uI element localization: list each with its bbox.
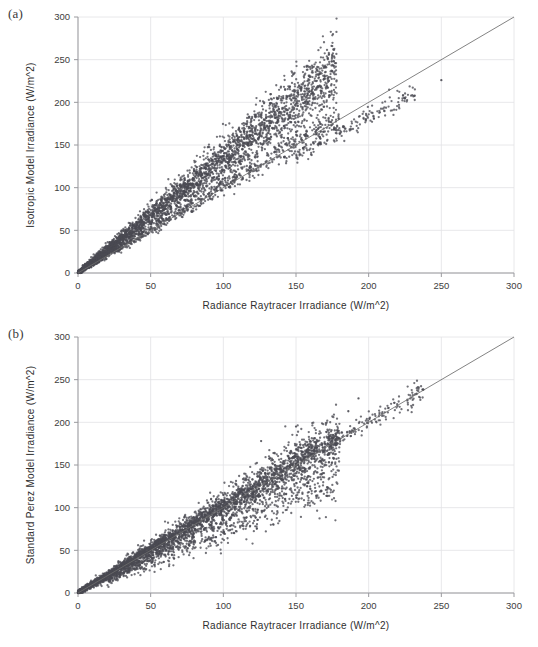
x-tick-label: 150 (288, 600, 304, 611)
y-tick-label: 200 (54, 417, 70, 428)
y-axis-title: Standard Perez Model Irradiance (W/m^2) (25, 366, 36, 565)
panel-a: (a) 050100150200250300050100150200250300… (0, 0, 538, 320)
x-tick-label: 200 (361, 600, 377, 611)
x-tick-label: 100 (215, 600, 231, 611)
y-tick-label: 50 (59, 545, 70, 556)
y-tick-label: 0 (65, 267, 70, 278)
x-tick-label: 200 (361, 280, 377, 291)
figure-container: (a) 050100150200250300050100150200250300… (0, 0, 538, 647)
outlier-point (260, 440, 262, 442)
x-tick-label: 100 (215, 280, 231, 291)
scatter-plot-b: 050100150200250300050100150200250300Radi… (0, 320, 538, 647)
y-tick-label: 50 (59, 225, 70, 236)
y-tick-label: 300 (54, 331, 70, 342)
outlier-point (440, 79, 442, 81)
x-tick-label: 50 (145, 600, 156, 611)
scatter-plot-a: 050100150200250300050100150200250300Radi… (0, 0, 538, 320)
outlier-point (357, 397, 359, 399)
y-tick-label: 300 (54, 11, 70, 22)
outlier-point (347, 410, 349, 412)
y-tick-label: 100 (54, 182, 70, 193)
y-tick-label: 150 (54, 459, 70, 470)
x-axis-title: Radiance Raytracer Irradiance (W/m^2) (203, 620, 390, 631)
x-tick-label: 250 (433, 600, 449, 611)
x-tick-label: 300 (506, 280, 522, 291)
y-tick-label: 150 (54, 139, 70, 150)
y-tick-label: 0 (65, 587, 70, 598)
y-tick-label: 250 (54, 374, 70, 385)
y-tick-label: 200 (54, 97, 70, 108)
panel-b: (b) 050100150200250300050100150200250300… (0, 320, 538, 647)
x-axis-title: Radiance Raytracer Irradiance (W/m^2) (203, 300, 390, 311)
x-tick-label: 150 (288, 280, 304, 291)
x-tick-label: 300 (506, 600, 522, 611)
x-tick-label: 50 (145, 280, 156, 291)
y-tick-label: 250 (54, 54, 70, 65)
y-tick-label: 100 (54, 502, 70, 513)
x-tick-label: 0 (75, 280, 80, 291)
x-tick-label: 0 (75, 600, 80, 611)
y-axis-title: Isotropic Model Irradiance (W/m^2) (25, 62, 36, 228)
outlier-point (295, 425, 297, 427)
x-tick-label: 250 (433, 280, 449, 291)
